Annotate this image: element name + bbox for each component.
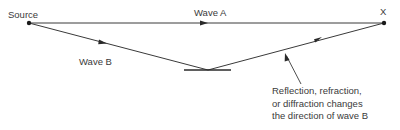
destination-label: X	[380, 7, 386, 17]
annotation-line: or diffraction changes	[272, 98, 368, 111]
annotation-text: Reflection, refraction, or diffraction c…	[272, 85, 368, 123]
wave-a-label: Wave A	[194, 8, 226, 18]
wave-b-incident-arrow-icon	[98, 40, 107, 45]
wave-b-label: Wave B	[79, 57, 112, 67]
wave-b-reflected-path	[208, 23, 384, 70]
source-point	[27, 21, 31, 25]
wave-a-arrow-icon	[200, 21, 208, 26]
source-label: Source	[8, 10, 38, 20]
annotation-line: Reflection, refraction,	[272, 85, 368, 98]
wave-b-incident-path	[29, 23, 208, 70]
annotation-line: the direction of wave B	[272, 110, 368, 123]
annotation-pointer-arrow-icon	[285, 53, 290, 62]
destination-point	[382, 21, 386, 25]
